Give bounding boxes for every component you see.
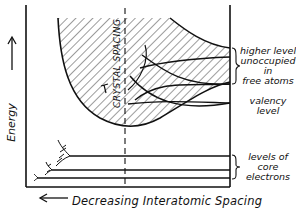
energy-band-diagram: Energy Decreasing Interatomic Spacing CR… — [0, 0, 296, 214]
annotation-higher-levels: higher levels unoccupied in free atoms — [240, 46, 296, 86]
annotation-valency-level: valency level — [240, 96, 296, 116]
brace-core-levels — [232, 155, 240, 179]
energy-band-hatched-region — [58, 18, 230, 126]
left-arrow-icon — [40, 194, 68, 202]
crystal-spacing-label: CRYSTAL SPACING — [112, 19, 122, 108]
up-arrow-icon — [8, 37, 16, 70]
brace-higher-levels — [232, 48, 240, 84]
y-axis-label: Energy — [5, 93, 18, 153]
x-axis-label: Decreasing Interatomic Spacing — [72, 194, 262, 208]
core-levels — [34, 140, 230, 181]
annotation-core-electrons: levels of core electrons — [240, 152, 296, 182]
